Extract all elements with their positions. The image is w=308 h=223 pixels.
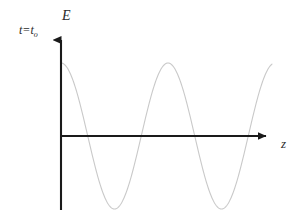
time-annotation-subscript: o <box>34 30 38 39</box>
x-axis-label: z <box>281 137 286 150</box>
time-annotation-text: t=t <box>19 23 34 37</box>
plot-canvas <box>0 0 308 223</box>
wave-figure: E z t=to <box>0 0 308 223</box>
time-annotation: t=to <box>19 24 38 39</box>
y-axis-label: E <box>62 9 71 23</box>
